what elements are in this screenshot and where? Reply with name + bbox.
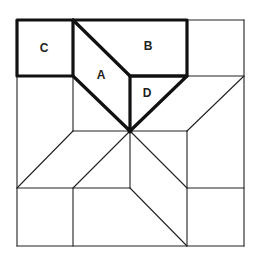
center-point [128, 129, 133, 134]
quilt-diagram [0, 0, 259, 260]
label-a: A [97, 69, 106, 81]
label-c: C [40, 42, 49, 54]
label-d: D [143, 87, 152, 99]
piece-d-outline [130, 76, 187, 131]
piece-b-outline [73, 20, 187, 76]
label-b: B [144, 40, 153, 52]
